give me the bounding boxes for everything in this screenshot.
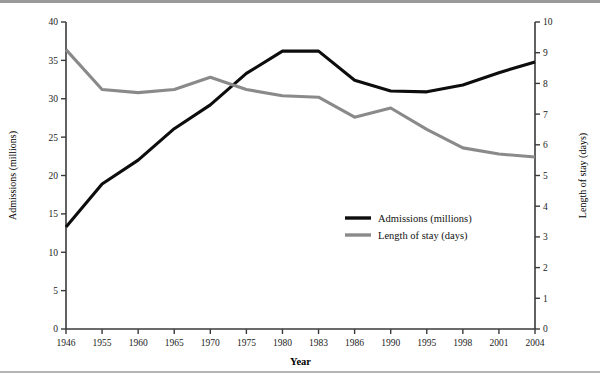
left-axis-title: Admissions (millions): [7, 131, 19, 220]
left-axis-tick-label: 15: [49, 209, 59, 219]
x-axis-tick-label: 1998: [453, 338, 472, 348]
series-line-length-of-stay: [66, 50, 535, 157]
x-axis-tick-label: 1995: [417, 338, 436, 348]
x-axis-tick-label: 1960: [129, 338, 148, 348]
right-axis-tick-label: 5: [543, 171, 548, 181]
x-axis-tick-label: 1980: [273, 338, 292, 348]
right-axis-tick-label: 2: [543, 263, 548, 273]
left-axis-tick-label: 5: [53, 286, 58, 296]
chart-container: 0510152025303540012345678910194619551960…: [0, 0, 600, 373]
right-axis-tick-label: 6: [543, 140, 548, 150]
right-axis-tick-label: 8: [543, 79, 548, 89]
right-axis-tick-label: 10: [543, 17, 553, 27]
right-axis-tick-label: 0: [543, 324, 548, 334]
x-axis-tick-label: 1970: [201, 338, 220, 348]
legend-label: Admissions (millions): [378, 213, 472, 225]
x-axis-tick-label: 1955: [93, 338, 112, 348]
left-axis-tick-label: 25: [49, 133, 59, 143]
legend-layer: Admissions (millions)Length of stay (day…: [345, 213, 472, 242]
x-axis-tick-label: 1983: [309, 338, 328, 348]
x-axis-tick-label: 1990: [381, 338, 400, 348]
right-axis-tick-label: 1: [543, 294, 548, 304]
left-axis-tick-label: 0: [53, 324, 58, 334]
x-axis-tick-label: 1965: [165, 338, 184, 348]
right-axis-tick-label: 4: [543, 202, 548, 212]
right-axis-tick-label: 7: [543, 110, 548, 120]
x-axis-tick-label: 1986: [345, 338, 364, 348]
left-axis-tick-label: 10: [49, 248, 59, 258]
left-axis-tick-label: 20: [49, 171, 59, 181]
x-axis-tick-label: 1946: [57, 338, 76, 348]
right-axis-tick-label: 3: [543, 232, 548, 242]
series-layer: [66, 50, 535, 227]
x-axis-title: Year: [290, 356, 311, 367]
right-axis-tick-label: 9: [543, 48, 548, 58]
line-chart: 0510152025303540012345678910194619551960…: [0, 0, 600, 373]
legend-label: Length of stay (days): [378, 230, 468, 242]
left-axis-tick-label: 35: [49, 56, 59, 66]
x-axis-tick-label: 1975: [237, 338, 256, 348]
left-axis-tick-label: 30: [49, 94, 59, 104]
x-axis-tick-label: 2004: [526, 338, 545, 348]
x-axis-tick-label: 2001: [489, 338, 508, 348]
right-axis-title: Length of stay (days): [577, 133, 589, 218]
series-line-admissions: [66, 51, 535, 227]
left-axis-tick-label: 40: [49, 17, 59, 27]
